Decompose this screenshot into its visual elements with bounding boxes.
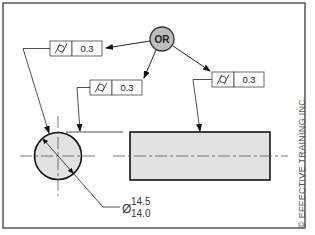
leader-right [193,80,212,132]
feature-control-frame-middle: 0.3 [90,80,142,95]
feature-control-frame-left: 0.3 [50,41,102,56]
or-label: OR [155,34,171,45]
diameter-symbol: Ø [122,202,131,216]
or-arrow-middle [144,50,156,78]
tolerance-value: 0.3 [242,74,255,85]
diameter-dimension: Ø 14.5 14.0 [122,196,151,219]
tolerance-value: 0.3 [80,43,93,54]
leader-middle [77,88,90,132]
or-arrow-left [106,41,150,48]
feature-control-frame-right: 0.3 [212,72,264,87]
or-arrow-right [173,46,210,71]
or-node: OR [150,27,174,51]
leader-left [23,49,50,134]
cylinder-side-view [113,132,288,180]
tolerance-value: 0.3 [120,82,133,93]
cylinder-end-view [20,116,120,207]
diameter-lower: 14.0 [131,208,151,219]
diameter-upper: 14.5 [131,196,151,207]
diameter-leader [73,173,120,207]
copyright-text: © EFFECTIVE TRAINING INC. [297,96,307,228]
gdt-diagram: OR 0.3 0.3 0.3 [0,0,315,235]
